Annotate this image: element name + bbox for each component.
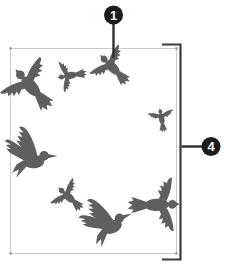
bird-silhouette-mid-left — [4, 124, 59, 179]
bird-silhouette-small-upper — [55, 58, 90, 93]
callout-1: 1 — [104, 6, 123, 59]
callout-4-number: 4 — [207, 139, 215, 154]
bird-silhouette-center — [47, 175, 93, 221]
bird-silhouette-bottom-center — [73, 185, 139, 250]
callout-1-number: 1 — [110, 8, 117, 23]
birds-layer — [0, 41, 181, 251]
diagram-canvas: 1 4 — [0, 0, 227, 272]
callout-4: 4 — [182, 137, 221, 156]
bird-silhouette-small-right — [147, 106, 176, 134]
bird-silhouette-large-right — [127, 177, 181, 232]
bird-flock-diagram: 1 4 — [0, 0, 227, 272]
